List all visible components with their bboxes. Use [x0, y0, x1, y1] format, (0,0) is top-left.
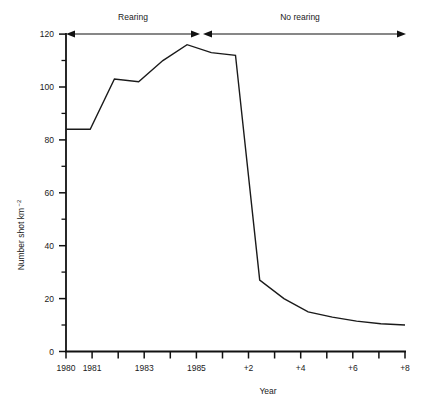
y-tick-label-100: 100 — [40, 82, 54, 92]
x-tick-label-plus6: +6 — [348, 363, 358, 373]
x-tick-label-plus8: +8 — [400, 363, 410, 373]
annotation-label-no-rearing: No rearing — [280, 12, 320, 22]
y-axis-title: Number shot km — [16, 208, 26, 270]
x-tick-label-1980: 1980 — [57, 363, 76, 373]
y-axis-title-exponent: −2 — [16, 199, 22, 207]
y-tick-label-20: 20 — [45, 294, 55, 304]
y-tick-label-120: 120 — [40, 29, 54, 39]
x-tick-label-1983: 1983 — [135, 363, 154, 373]
x-tick-label-plus4: +4 — [296, 363, 306, 373]
chart-figure: Rearing No rearing — [0, 0, 425, 411]
line-chart-svg: Rearing No rearing — [0, 0, 425, 411]
x-tick-label-plus2: +2 — [244, 363, 254, 373]
x-axis-title: Year — [259, 386, 276, 396]
svg-text:Number shot km−2: Number shot km−2 — [16, 199, 27, 270]
chart-background — [0, 0, 425, 411]
x-tick-label-1985: 1985 — [187, 363, 206, 373]
y-tick-label-80: 80 — [45, 135, 55, 145]
x-tick-label-1981: 1981 — [83, 363, 102, 373]
y-axis-title-group: Number shot km−2 — [16, 199, 27, 270]
y-tick-label-40: 40 — [45, 241, 55, 251]
y-tick-label-0: 0 — [49, 347, 54, 357]
annotation-label-rearing: Rearing — [118, 12, 148, 22]
y-tick-label-60: 60 — [45, 188, 55, 198]
